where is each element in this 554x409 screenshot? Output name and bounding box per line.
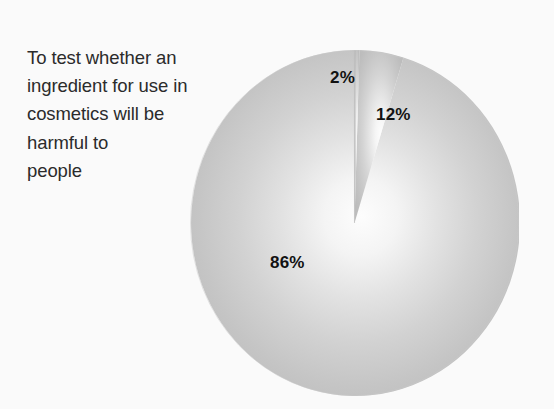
pie-chart-figure: To test whether an ingredient for use in…	[0, 0, 554, 409]
pie-label-12-percent: 12%	[376, 105, 411, 125]
pie-label-2-percent: 2%	[330, 68, 355, 88]
pie-label-86-percent: 86%	[270, 253, 305, 273]
chart-caption: To test whether an ingredient for use in…	[27, 44, 242, 185]
